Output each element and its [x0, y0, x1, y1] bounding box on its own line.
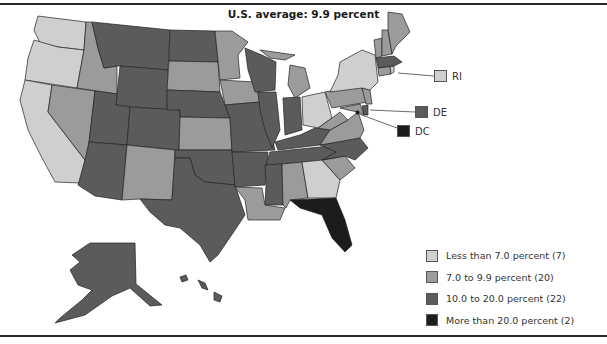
callout-swatch-dc: [397, 125, 410, 137]
map-legend: Less than 7.0 percent (7) 7.0 to 9.9 per…: [426, 249, 574, 335]
state-WY: [116, 66, 168, 110]
legend-item: 7.0 to 9.9 percent (20): [426, 271, 574, 284]
callout-label-ri: RI: [452, 71, 462, 82]
callout-dc: DC: [397, 125, 430, 137]
state-AK: [55, 243, 162, 323]
callout-ri: RI: [434, 70, 462, 82]
callout-de: DE: [415, 106, 447, 118]
state-IN: [283, 97, 302, 135]
legend-swatch-10-to-20: [426, 293, 438, 305]
callout-label-dc: DC: [415, 126, 430, 137]
state-MT: [92, 22, 170, 70]
state-MS: [265, 164, 283, 205]
legend-swatch-7-to-9-9: [426, 271, 438, 283]
state-AR: [232, 152, 268, 187]
leader-line-de: [370, 110, 415, 112]
state-ND: [169, 30, 218, 62]
state-ME: [388, 12, 410, 54]
state-CO: [127, 107, 180, 150]
legend-item: Less than 7.0 percent (7): [426, 249, 574, 262]
state-NM: [122, 145, 175, 200]
state-MA: [376, 56, 402, 68]
legend-swatch-more-than-20: [426, 314, 438, 326]
callout-label-de: DE: [433, 107, 447, 118]
state-SD: [167, 61, 220, 92]
legend-label: More than 20.0 percent (2): [446, 315, 574, 326]
legend-label: 10.0 to 20.0 percent (22): [446, 293, 566, 304]
state-KS: [179, 117, 232, 150]
legend-label: 7.0 to 9.9 percent (20): [446, 272, 554, 283]
state-HI: [180, 275, 222, 302]
state-DC: [356, 111, 359, 114]
leader-line-ri: [398, 73, 434, 76]
bottom-rule: [0, 335, 607, 337]
state-MN: [215, 31, 248, 80]
state-RI: [390, 66, 394, 74]
callout-swatch-ri: [434, 70, 447, 82]
legend-label: Less than 7.0 percent (7): [446, 250, 566, 261]
callout-swatch-de: [415, 106, 428, 118]
state-FL: [290, 198, 352, 252]
legend-item: More than 20.0 percent (2): [426, 314, 574, 327]
legend-swatch-less-than-7: [426, 250, 438, 262]
leader-line-dc: [359, 114, 397, 128]
state-NY: [330, 50, 378, 92]
legend-item: 10.0 to 20.0 percent (22): [426, 292, 574, 305]
